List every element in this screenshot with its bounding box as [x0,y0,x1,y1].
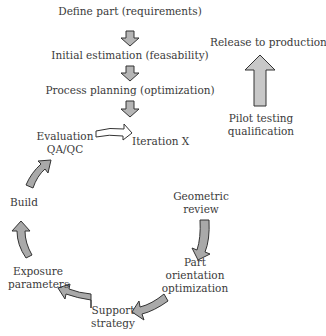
step-define-part: Define part (requirements) [0,5,260,18]
geometric-line-1: Geometric [170,190,232,203]
orientation-line-1: Part [160,256,230,269]
step-exposure-parameters: Exposure parameters [8,265,68,291]
down-arrow-icon [121,31,139,46]
pilot-line-1: Pilot testing [222,112,300,125]
step-initial-estimation: Initial estimation (feasability) [0,49,260,62]
step-part-orientation: Part orientation optimization [160,256,230,295]
step-support-strategy: Support strategy [88,304,138,330]
pilot-line-2: qualification [222,125,300,138]
down-arrow-icon [121,101,139,117]
orientation-line-3: optimization [160,282,230,295]
step-evaluation: Evaluation QA/QC [30,130,100,156]
curved-arrow-icon [192,220,210,260]
support-line-2: strategy [88,317,138,330]
down-arrow-icon [121,66,139,81]
curved-arrow-icon [12,221,32,258]
pilot-testing: Pilot testing qualification [222,112,300,138]
exposure-line-2: parameters [8,278,68,291]
step-build: Build [10,196,38,209]
geometric-line-2: review [170,203,232,216]
orientation-line-2: orientation [160,269,230,282]
right-arrow-outline-icon [96,124,132,140]
step-process-planning: Process planning (optimization) [0,84,260,97]
support-line-1: Support [88,304,138,317]
step-geometric-review: Geometric review [170,190,232,216]
iteration-label: Iteration X [132,135,189,148]
exposure-line-1: Exposure [8,265,68,278]
release-to-production: Release to production [210,36,315,49]
evaluation-line-2: QA/QC [30,143,100,156]
curved-arrow-icon [26,160,51,188]
up-arrow-icon [245,55,275,106]
evaluation-line-1: Evaluation [30,130,100,143]
